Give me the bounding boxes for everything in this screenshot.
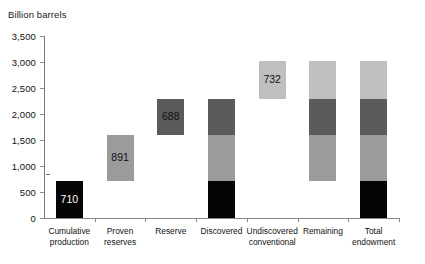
- bar-segment-reserve-growth: [208, 99, 235, 135]
- y-tick-mark: [40, 192, 44, 193]
- chart-figure: Billion barrels 710891688732 05001,0001,…: [0, 0, 425, 264]
- bar-segment-proven-reserves: 891: [107, 135, 134, 181]
- bar-segment-proven-reserves: [309, 135, 336, 181]
- y-tick-label: 500: [2, 187, 36, 198]
- bar-segment-cumulative-production: [208, 181, 235, 218]
- bar-reserve: 688: [157, 99, 184, 135]
- y-tick-label: 1,000: [2, 161, 36, 172]
- y-tick-label: 3,000: [2, 57, 36, 68]
- y-axis-title: Billion barrels: [8, 9, 67, 20]
- x-tick-label: Totalendowment: [338, 226, 410, 248]
- bar-discovered: [208, 99, 235, 218]
- bar-total-endowment: [360, 61, 387, 218]
- bar-proven-reserves: 891: [107, 135, 134, 181]
- x-tick-mark: [196, 218, 197, 222]
- y-tick-label: 2,500: [2, 83, 36, 94]
- y-tick-mark: [40, 166, 44, 167]
- bar-segment-undiscovered-conventional: 732: [259, 61, 286, 99]
- y-tick-mark: [40, 88, 44, 89]
- x-tick-mark: [95, 218, 96, 222]
- y-tick-mark: [40, 62, 44, 63]
- y-tick-label: 1,500: [2, 135, 36, 146]
- bar-value-label: 891: [107, 151, 134, 163]
- bar-segment-proven-reserves: [360, 135, 387, 181]
- bar-remaining: [309, 61, 336, 181]
- x-tick-mark: [399, 218, 400, 222]
- bar-segment-undiscovered-conventional: [360, 61, 387, 99]
- bar-segment-cumulative-production: 710: [56, 181, 83, 218]
- x-tick-mark: [348, 218, 349, 222]
- y-tick-label: 2,000: [2, 109, 36, 120]
- bar-value-label: 710: [56, 193, 83, 205]
- bar-value-label: 688: [157, 110, 184, 122]
- x-tick-label-line: endowment: [338, 237, 410, 248]
- y-tick-label: 3,500: [2, 31, 36, 42]
- x-tick-mark: [298, 218, 299, 222]
- bar-segment-undiscovered-conventional: [309, 61, 336, 99]
- x-tick-label-line: conventional: [236, 237, 308, 248]
- bar-undiscovered-conventional: 732: [259, 61, 286, 99]
- plot-area: 710891688732: [44, 36, 399, 218]
- bar-segment-reserve-growth: [309, 99, 336, 135]
- x-tick-mark: [247, 218, 248, 222]
- bar-segment-cumulative-production: [360, 181, 387, 218]
- x-tick-label-line: Total: [338, 226, 410, 237]
- x-tick-label-line: reserves: [84, 237, 156, 248]
- x-tick-mark: [145, 218, 146, 222]
- y-tick-mark: [40, 218, 44, 219]
- bar-segment-proven-reserves: [208, 135, 235, 181]
- y-tick-mark: [40, 114, 44, 115]
- y-tick-label: 0: [2, 213, 36, 224]
- x-axis-line: [44, 218, 400, 219]
- y-tick-mark: [40, 36, 44, 37]
- bar-segment-reserve-growth: 688: [157, 99, 184, 135]
- bar-value-label: 732: [259, 73, 286, 85]
- bar-segment-reserve-growth: [360, 99, 387, 135]
- y-tick-mark: [40, 140, 44, 141]
- bar-cumulative-production: 710: [56, 181, 83, 218]
